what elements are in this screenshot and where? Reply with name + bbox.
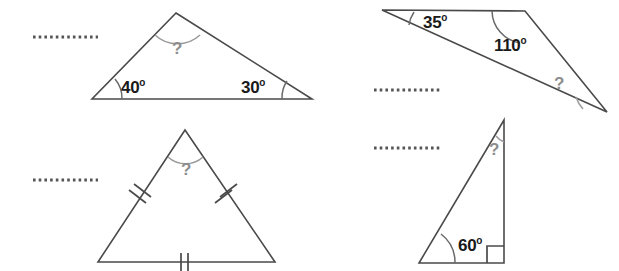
triangle-4-angle-60-arc (441, 234, 455, 263)
triangle-4-unknown-label: ? (489, 140, 499, 160)
triangle-2-unknown-label: ? (554, 74, 564, 94)
triangle-1-angle-40-label: 40o (121, 77, 145, 98)
triangle-1-unknown-label: ? (172, 39, 182, 59)
triangle-2-outline (382, 10, 607, 112)
triangle-3-unknown-label: ? (181, 160, 191, 180)
triangle-1-angle-30-arc (282, 81, 287, 99)
triangle-3-outline (98, 130, 275, 262)
geometry-worksheet: 40o 30o ? 35o 110o ? ? 60o ? (0, 0, 619, 271)
triangle-2-angle-110-label: 110o (494, 35, 527, 56)
triangle-4-angle-60-label: 60o (458, 235, 482, 256)
triangle-3 (98, 130, 275, 271)
triangle-1-angle-30-label: 30o (241, 77, 265, 98)
triangle-2 (382, 10, 607, 112)
triangle-2-angle-35-label: 35o (423, 12, 447, 33)
triangle-4-right-angle-marker (487, 246, 504, 263)
